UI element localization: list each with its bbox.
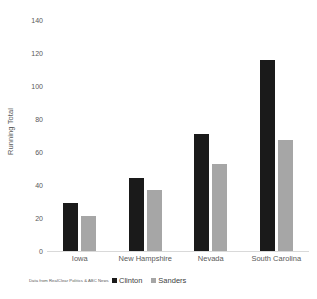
x-axis-category-labels: IowaNew HampshireNevadaSouth Carolina	[47, 254, 309, 268]
y-axis-title-label: Running Total	[7, 107, 16, 154]
source-note: Data from RealClear Politics & ABC News	[29, 278, 109, 283]
legend-swatch-icon	[151, 278, 156, 283]
x-axis-baseline	[47, 251, 309, 252]
bar-sanders-new-hampshire[interactable]	[147, 190, 162, 251]
legend-item-sanders[interactable]: Sanders	[151, 276, 186, 285]
y-axis-title: Running Total	[0, 0, 22, 262]
y-axis-tick: 60	[35, 149, 43, 156]
bar-pair	[178, 20, 244, 251]
legend-item-clinton[interactable]: Clinton	[112, 276, 142, 285]
y-axis-tick-labels: 140120100806040200	[22, 0, 46, 262]
bar-group	[178, 20, 244, 251]
bar-sanders-iowa[interactable]	[81, 216, 96, 251]
y-axis-tick: 100	[31, 83, 43, 90]
legend-label: Sanders	[158, 276, 186, 285]
bar-pair	[113, 20, 179, 251]
chart-legend: ClintonSanders	[112, 276, 186, 285]
bar-pair	[244, 20, 310, 251]
bar-clinton-new-hampshire[interactable]	[129, 178, 144, 251]
bar-clinton-south-carolina[interactable]	[260, 60, 275, 251]
x-axis-label-nevada: Nevada	[198, 254, 224, 263]
bar-clinton-nevada[interactable]	[194, 134, 209, 251]
bar-group	[244, 20, 310, 251]
bar-sanders-nevada[interactable]	[212, 164, 227, 251]
y-axis-tick: 80	[35, 116, 43, 123]
y-axis-tick: 0	[39, 248, 43, 255]
y-axis-tick: 120	[31, 50, 43, 57]
bar-pair	[47, 20, 113, 251]
x-axis-label-new-hampshire: New Hampshire	[119, 254, 172, 263]
x-axis-label-iowa: Iowa	[72, 254, 88, 263]
legend-label: Clinton	[119, 276, 142, 285]
x-axis-label-south-carolina: South Carolina	[251, 254, 301, 263]
y-axis-tick: 40	[35, 182, 43, 189]
plot-area	[47, 20, 309, 252]
bar-group	[47, 20, 113, 251]
y-axis-tick: 140	[31, 17, 43, 24]
y-axis-tick: 20	[35, 215, 43, 222]
bar-chart-figure: Running Total 140120100806040200 IowaNew…	[0, 0, 317, 299]
legend-swatch-icon	[112, 278, 117, 283]
bar-sanders-south-carolina[interactable]	[278, 140, 293, 251]
bar-group	[113, 20, 179, 251]
bar-clinton-iowa[interactable]	[63, 203, 78, 251]
